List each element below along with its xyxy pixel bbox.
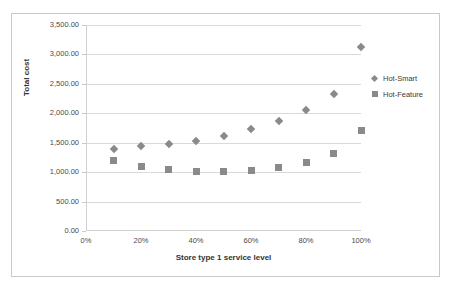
- data-point-diamond: [247, 125, 255, 133]
- data-point-square: [138, 163, 145, 170]
- chart-legend: Hot-SmartHot-Feature: [370, 70, 423, 102]
- data-point-square: [275, 164, 282, 171]
- data-point-square: [303, 159, 310, 166]
- data-point-diamond: [192, 137, 200, 145]
- y-axis-title: Total cost: [22, 59, 31, 96]
- y-axis-line: [86, 25, 87, 231]
- x-axis-tick-label: 100%: [336, 237, 386, 245]
- gridline: [86, 202, 361, 203]
- legend-item-label: Hot-Smart: [383, 74, 417, 83]
- y-axis-tick-label: 3,500.00: [50, 21, 79, 29]
- x-axis-tick-label: 40%: [171, 237, 221, 245]
- legend-item: Hot-Feature: [370, 86, 423, 102]
- data-point-square: [358, 127, 365, 134]
- data-point-square: [193, 168, 200, 175]
- y-axis-tick-label: 500.00: [56, 198, 79, 206]
- plot-area: [86, 25, 361, 231]
- gridline: [86, 84, 361, 85]
- x-axis-tick-label: 80%: [281, 237, 331, 245]
- gridline: [86, 25, 361, 26]
- gridline: [86, 143, 361, 144]
- x-axis-tick-label: 20%: [116, 237, 166, 245]
- y-axis-tick-label: 3,000.00: [50, 50, 79, 58]
- data-point-diamond: [164, 140, 172, 148]
- data-point-diamond: [274, 117, 282, 125]
- data-point-diamond: [329, 90, 337, 98]
- y-axis-tick-label: 1,000.00: [50, 168, 79, 176]
- y-axis-tick-mark: [82, 231, 86, 232]
- gridline: [86, 113, 361, 114]
- y-axis-tick-label: 2,500.00: [50, 80, 79, 88]
- x-axis-tick-label: 0%: [61, 237, 111, 245]
- square-marker-icon: [370, 90, 379, 99]
- y-axis-tick-label: 2,000.00: [50, 109, 79, 117]
- data-point-square: [110, 157, 117, 164]
- data-point-square: [220, 168, 227, 175]
- data-point-diamond: [357, 43, 365, 51]
- y-axis-tick-label: 0.00: [64, 227, 79, 235]
- scatter-chart: Total cost 0.00500.001,000.001,500.002,0…: [0, 0, 458, 291]
- data-point-square: [165, 166, 172, 173]
- data-point-square: [248, 167, 255, 174]
- data-point-diamond: [109, 145, 117, 153]
- legend-item-label: Hot-Feature: [383, 90, 423, 99]
- data-point-square: [330, 150, 337, 157]
- data-point-diamond: [219, 131, 227, 139]
- y-axis-tick-label: 1,500.00: [50, 139, 79, 147]
- x-axis-title: Store type 1 service level: [86, 253, 361, 262]
- legend-item: Hot-Smart: [370, 70, 423, 86]
- x-axis-line: [86, 230, 361, 231]
- x-axis-tick-label: 60%: [226, 237, 276, 245]
- gridline: [86, 54, 361, 55]
- diamond-marker-icon: [370, 74, 379, 83]
